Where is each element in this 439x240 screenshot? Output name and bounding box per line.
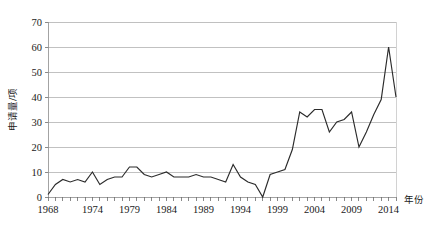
chart-canvas: 0102030405060701968197419791984198919941… <box>0 0 439 240</box>
y-tick-label: 60 <box>32 42 43 53</box>
y-tick-label: 20 <box>32 142 43 153</box>
y-tick-label: 10 <box>32 167 43 178</box>
x-tick-label: 2004 <box>304 204 326 215</box>
line-chart: 0102030405060701968197419791984198919941… <box>0 0 439 240</box>
x-tick-label: 1989 <box>193 204 214 215</box>
x-tick-label: 1968 <box>38 204 59 215</box>
y-axis-title: 申请量/项 <box>7 88 18 131</box>
x-tick-label: 1979 <box>119 204 140 215</box>
y-tick-label: 70 <box>32 17 43 28</box>
x-axis-title: 年份 <box>404 194 424 205</box>
y-tick-label: 30 <box>32 117 43 128</box>
x-tick-label: 1974 <box>82 204 104 215</box>
x-tick-label: 1994 <box>230 204 252 215</box>
x-tick-label: 1984 <box>156 204 178 215</box>
y-tick-label: 0 <box>37 192 42 203</box>
x-tick-label: 2014 <box>378 204 400 215</box>
y-tick-label: 40 <box>32 92 43 103</box>
y-tick-label: 50 <box>32 67 43 78</box>
x-tick-label: 1999 <box>267 204 288 215</box>
x-tick-label: 2009 <box>341 204 362 215</box>
